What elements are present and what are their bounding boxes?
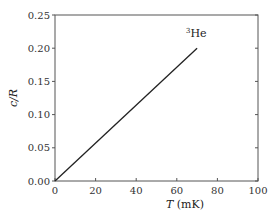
plot-frame: [55, 15, 258, 181]
x-tick-label: 100: [248, 185, 267, 196]
data-line: [55, 48, 197, 181]
x-tick-label: 40: [130, 185, 143, 196]
annotation-label: 3He: [186, 27, 207, 40]
y-axis-label: c/R: [7, 89, 20, 107]
y-tick-label: 0.10: [28, 109, 50, 120]
y-tick-label: 0.15: [28, 76, 50, 87]
x-tick-label: 0: [52, 185, 58, 196]
x-tick-label: 20: [89, 185, 102, 196]
y-tick-label: 0.05: [28, 142, 50, 153]
chart-svg: 0204060801000.000.050.100.150.200.253HeT…: [0, 0, 280, 220]
y-tick-label: 0.00: [28, 176, 50, 187]
x-tick-label: 80: [211, 185, 224, 196]
x-tick-label: 60: [170, 185, 183, 196]
y-tick-label: 0.20: [28, 43, 50, 54]
x-axis-label: T (mK): [166, 198, 204, 211]
y-tick-label: 0.25: [28, 10, 50, 21]
